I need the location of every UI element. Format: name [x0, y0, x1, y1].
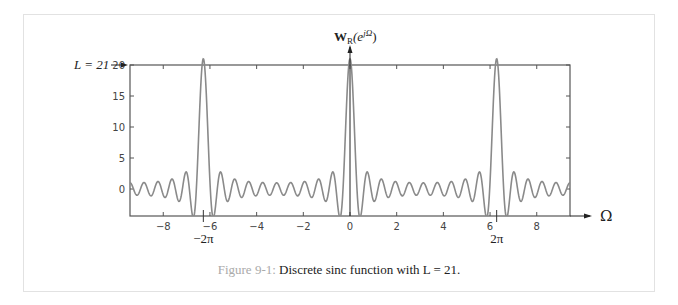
x-axis-arrow-icon — [584, 214, 592, 219]
sinc-plot: −8−6−4−20246805101520ΩWR(ejΩ)L = 21−2π2π — [0, 0, 678, 305]
y-tick-label: 0 — [119, 184, 125, 195]
caption-text: Discrete sinc function with L = 21. — [276, 262, 460, 277]
x-tick-label: −4 — [249, 221, 264, 232]
y-tick-label: 10 — [112, 122, 125, 133]
x-axis-title: Ω — [600, 207, 612, 225]
x-tick-label: 8 — [534, 221, 540, 232]
y-axis-arrow-icon — [348, 45, 353, 53]
y-tick-label: 5 — [119, 153, 125, 164]
y-tick-label: 15 — [112, 91, 125, 102]
x-tick-label: −2 — [296, 221, 311, 232]
caption-label: Figure 9-1: — [218, 262, 276, 277]
figure-caption: Figure 9-1: Discrete sinc function with … — [0, 262, 678, 278]
y-axis-title: WR(ejΩ) — [334, 28, 376, 46]
x-tick-label: 0 — [347, 221, 353, 232]
annotation-2pi: 2π — [490, 231, 504, 246]
x-tick-label: −8 — [156, 221, 171, 232]
x-tick-label: 2 — [393, 221, 399, 232]
annotation-L: L = 21 — [73, 57, 109, 72]
x-tick-label: 4 — [440, 221, 446, 232]
annotation-neg-2pi: −2π — [193, 231, 214, 246]
